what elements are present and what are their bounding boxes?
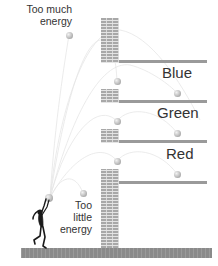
ball-too-much-energy xyxy=(66,32,73,39)
ball-green-shelf xyxy=(174,130,181,137)
brick-wall-segment-3 xyxy=(101,129,119,143)
ball-red-launch xyxy=(114,158,121,165)
shelf-bottom xyxy=(119,181,207,184)
shelf-label-red: Red xyxy=(166,145,194,162)
ball-blue-launch xyxy=(114,78,121,85)
too-much-label-line1: Too much xyxy=(12,4,72,16)
too-much-energy-label: Too much energy xyxy=(12,4,72,28)
brick-wall-bottom xyxy=(101,169,119,249)
ball-too-little-energy xyxy=(80,190,87,197)
brick-wall-top xyxy=(101,18,119,63)
ball-green-launch xyxy=(114,118,121,125)
shelf-label-blue: Blue xyxy=(162,64,192,81)
too-much-label-line2: energy xyxy=(12,16,72,28)
ball-red-shelf xyxy=(174,171,181,178)
shelf-green xyxy=(119,100,207,103)
person-throwing-icon xyxy=(26,196,56,250)
shelf-red xyxy=(119,140,207,143)
brick-wall-segment-2 xyxy=(101,89,119,103)
ball-blue-shelf xyxy=(174,90,181,97)
shelf-blue xyxy=(119,60,207,63)
shelf-label-green: Green xyxy=(157,104,199,121)
